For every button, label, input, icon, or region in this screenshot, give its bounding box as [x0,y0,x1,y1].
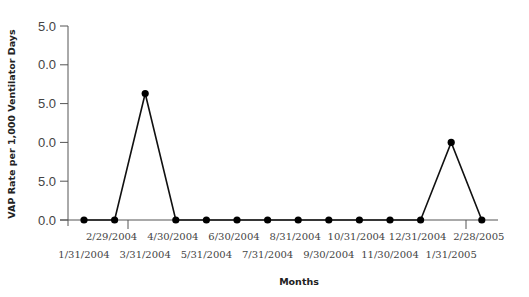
data-point-marker [264,216,271,223]
x-tick-label: 1/31/2005 [426,249,477,260]
x-tick-label: 2/29/2004 [86,231,137,242]
vap-rate-line-chart: 5.00.05.00.05.00.0 1/31/20042/29/20043/3… [0,0,529,297]
y-axis: 5.00.05.00.05.00.0 [38,19,68,228]
y-tick-label: 0.0 [38,135,56,150]
y-tick-label: 5.0 [38,96,56,111]
x-tick-label: 3/31/2004 [120,249,171,260]
x-tick-label: 5/31/2004 [181,249,232,260]
data-point-marker [325,216,332,223]
y-tick-label: 0.0 [38,57,56,72]
data-point-marker [172,216,179,223]
data-point-marker [478,216,485,223]
data-point-marker [233,216,240,223]
x-tick-label: 4/30/2004 [147,231,198,242]
data-point-marker [448,139,455,146]
x-tick-label: 1/31/2004 [58,249,109,260]
y-axis-title: VAP Rate per 1,000 Ventilator Days [6,29,17,219]
x-tick-label: 2/28/2005 [453,231,504,242]
y-tick-label: 5.0 [38,174,56,189]
x-tick-label: 11/30/2004 [361,249,419,260]
data-point-marker [417,216,424,223]
data-point-marker [142,90,149,97]
data-point-marker [203,216,210,223]
x-tick-label: 9/30/2004 [303,249,354,260]
x-tick-label: 10/31/2004 [328,231,386,242]
x-axis-title: Months [279,276,319,287]
x-tick-label: 12/31/2004 [389,231,447,242]
data-point-marker [80,216,87,223]
y-tick-label: 5.0 [38,19,56,34]
series-line [80,90,485,224]
data-point-marker [111,216,118,223]
x-tick-label: 7/31/2004 [242,249,293,260]
data-point-marker [356,216,363,223]
x-tick-label: 6/30/2004 [208,231,259,242]
x-axis: 1/31/20042/29/20043/31/20044/30/20045/31… [58,220,504,260]
data-point-marker [295,216,302,223]
data-point-marker [386,216,393,223]
y-tick-label: 0.0 [38,213,56,228]
x-tick-label: 8/31/2004 [270,231,321,242]
